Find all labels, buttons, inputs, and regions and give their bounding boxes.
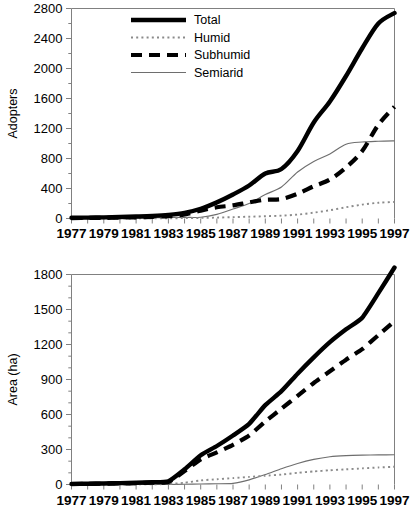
legend-label-humid: Humid [194, 31, 230, 45]
x-tick-label: 1985 [186, 493, 217, 508]
y-tick-label: 300 [41, 442, 63, 457]
x-tick-label: 1977 [56, 493, 86, 508]
y-tick-label: 900 [41, 372, 63, 387]
series-line-subhumid [72, 321, 395, 484]
chart-panel-area: 0300600900120015001800 19771979198119831… [0, 258, 417, 517]
adopters-y-axis-ticks [66, 9, 72, 219]
x-tick-label: 1977 [56, 226, 86, 241]
adopters-y-axis-title: Adopters [6, 88, 20, 138]
x-tick-label: 1981 [121, 493, 152, 508]
adopters-x-tick-labels: 1977197919811983198519871989199119931995… [56, 226, 409, 241]
area-y-axis-ticks [66, 275, 72, 485]
x-tick-label: 1993 [315, 226, 346, 241]
x-tick-label: 1987 [218, 493, 248, 508]
area-y-axis-title: Area (ha) [6, 353, 20, 405]
y-tick-label: 2400 [34, 31, 63, 46]
x-tick-label: 1989 [250, 226, 280, 241]
adopters-series-group [72, 13, 395, 219]
series-line-total [72, 268, 395, 484]
x-tick-label: 1997 [379, 226, 409, 241]
chart-legend: TotalHumidSubhumidSemiarid [131, 13, 250, 80]
x-tick-label: 1987 [218, 226, 248, 241]
y-tick-label: 1200 [34, 337, 63, 352]
legend-label-subhumid: Subhumid [194, 48, 250, 62]
adopters-y-tick-labels: 040080012001600200024002800 [34, 1, 63, 226]
y-tick-label: 1600 [34, 91, 63, 106]
x-tick-label: 1983 [153, 493, 184, 508]
series-line-subhumid [72, 107, 395, 218]
y-tick-label: 2000 [34, 61, 63, 76]
x-tick-label: 1995 [347, 226, 378, 241]
y-tick-label: 1200 [34, 121, 63, 136]
x-tick-label: 1991 [283, 493, 314, 508]
y-tick-label: 1800 [34, 267, 63, 282]
y-tick-label: 2800 [34, 1, 63, 16]
x-tick-label: 1993 [315, 493, 346, 508]
y-tick-label: 0 [55, 211, 62, 226]
y-tick-label: 1500 [34, 302, 63, 317]
x-tick-label: 1989 [250, 493, 280, 508]
x-tick-label: 1981 [121, 226, 152, 241]
x-tick-label: 1983 [153, 226, 184, 241]
x-tick-label: 1985 [186, 226, 217, 241]
series-line-total [72, 13, 395, 218]
x-tick-label: 1995 [347, 493, 378, 508]
y-tick-label: 400 [41, 181, 63, 196]
x-tick-label: 1979 [89, 493, 119, 508]
area-chart-svg: 0300600900120015001800 19771979198119831… [0, 258, 417, 517]
figure-two-panel-line-charts: 040080012001600200024002800 197719791981… [0, 0, 417, 517]
y-tick-label: 600 [41, 407, 63, 422]
chart-panel-adopters: 040080012001600200024002800 197719791981… [0, 0, 417, 258]
area-y-tick-labels: 0300600900120015001800 [34, 267, 63, 492]
x-tick-label: 1979 [89, 226, 119, 241]
adopters-plot-frame [72, 9, 395, 219]
legend-label-semiarid: Semiarid [194, 66, 243, 80]
legend-label-total: Total [194, 13, 220, 27]
adopters-chart-svg: 040080012001600200024002800 197719791981… [0, 0, 417, 258]
area-series-group [72, 268, 395, 485]
series-line-semiarid [72, 455, 395, 485]
area-x-tick-labels: 1977197919811983198519871989199119931995… [56, 493, 409, 508]
x-tick-label: 1997 [379, 493, 409, 508]
area-plot-frame [72, 275, 395, 485]
y-tick-label: 800 [41, 151, 63, 166]
y-tick-label: 0 [55, 477, 62, 492]
x-tick-label: 1991 [283, 226, 314, 241]
